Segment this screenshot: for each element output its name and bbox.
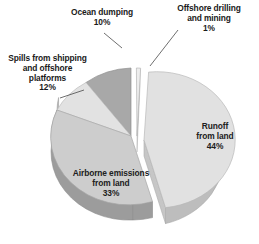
slice-label-ocean-dumping: Ocean dumping 10% bbox=[56, 8, 148, 28]
slice-top-offshore-drilling bbox=[136, 68, 140, 136]
pie-chart: Ocean dumping 10% Offshore drilling and … bbox=[0, 0, 259, 244]
leader-line-offshore-drilling bbox=[150, 30, 178, 66]
slice-label-runoff: Runoff from land 44% bbox=[179, 122, 251, 151]
slice-label-spills: Spills from shipping and offshore platfo… bbox=[0, 54, 96, 93]
slice-label-offshore-drilling: Offshore drilling and mining 1% bbox=[161, 4, 257, 33]
slice-label-airborne-emissions: Airborne emissions from land 33% bbox=[56, 169, 166, 198]
leader-line-ocean-dumping bbox=[104, 33, 122, 48]
